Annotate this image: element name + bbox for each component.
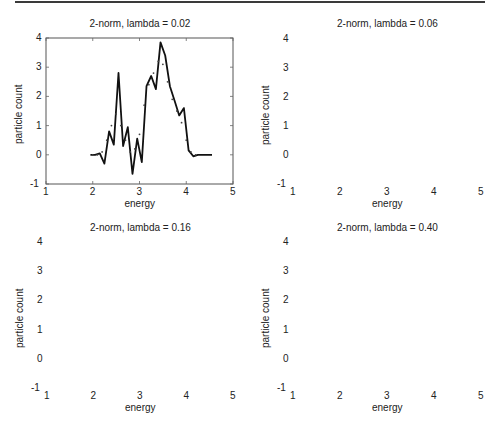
y-tick-label: 4 <box>37 236 43 247</box>
y-axis-label: particle count <box>260 85 271 144</box>
y-tick-label: 2 <box>36 90 42 101</box>
axes-box <box>46 38 233 184</box>
y-tick-label: 0 <box>283 353 289 364</box>
true-signal-dot <box>157 60 159 62</box>
true-signal-dot <box>101 151 103 153</box>
x-tick-label: 1 <box>290 390 296 401</box>
x-tick-label: 2 <box>337 390 343 401</box>
y-tick-label: 3 <box>283 62 289 73</box>
x-axis-label: energy <box>125 402 156 413</box>
x-tick-label: 5 <box>230 390 236 401</box>
x-tick-label: 4 <box>431 390 437 401</box>
plot-area <box>0 0 501 435</box>
y-axis-label: particle count <box>260 289 271 348</box>
true-signal-dot <box>162 63 164 65</box>
x-tick-label: 2 <box>91 390 97 401</box>
x-tick-label: 3 <box>137 390 143 401</box>
y-tick-label: 0 <box>37 353 43 364</box>
chart-title: 2-norm, lambda = 0.06 <box>337 18 438 29</box>
true-signal-dot <box>148 84 150 86</box>
y-tick-label: 4 <box>283 33 289 44</box>
x-tick-label: 1 <box>44 390 50 401</box>
y-tick-label: 3 <box>36 61 42 72</box>
x-tick-label: 1 <box>43 186 49 197</box>
y-tick-label: 2 <box>283 91 289 102</box>
x-tick-label: 3 <box>384 186 390 197</box>
y-tick-label: 3 <box>37 265 43 276</box>
top-rule <box>15 1 485 3</box>
y-tick-label: 3 <box>283 265 289 276</box>
y-tick-label: -1 <box>31 382 40 393</box>
x-axis-label: energy <box>372 198 403 209</box>
true-signal-dot <box>111 125 113 127</box>
chart-title: 2-norm, lambda = 0.02 <box>90 18 191 29</box>
true-signal-dot <box>195 154 197 156</box>
x-tick-label: 2 <box>337 186 343 197</box>
y-tick-label: 1 <box>36 120 42 131</box>
y-tick-label: 4 <box>283 236 289 247</box>
x-tick-label: 4 <box>431 186 437 197</box>
y-tick-label: 4 <box>36 32 42 43</box>
true-signal-dot <box>185 139 187 141</box>
true-signal-dot <box>190 151 192 153</box>
true-signal-dot <box>153 72 155 74</box>
x-tick-label: 4 <box>183 186 189 197</box>
x-tick-label: 3 <box>137 186 143 197</box>
true-signal-dot <box>171 98 173 100</box>
true-signal-dot <box>92 154 94 156</box>
true-signal-dot <box>134 148 136 150</box>
true-signal-dot <box>167 81 169 83</box>
y-tick-label: -1 <box>277 382 286 393</box>
x-tick-label: 4 <box>184 390 190 401</box>
x-tick-label: 2 <box>90 186 96 197</box>
true-signal-dot <box>181 122 183 124</box>
y-axis-label: particle count <box>14 289 25 348</box>
chart-title: 2-norm, lambda = 0.16 <box>90 222 191 233</box>
x-axis-label: energy <box>125 198 156 209</box>
y-tick-label: 2 <box>37 294 43 305</box>
x-tick-label: 3 <box>384 390 390 401</box>
reconstruction-line <box>90 42 212 173</box>
x-tick-label: 5 <box>478 186 484 197</box>
true-signal-dot <box>115 113 117 115</box>
chart-title: 2-norm, lambda = 0.40 <box>337 222 438 233</box>
y-tick-label: 1 <box>283 120 289 131</box>
true-signal-dot <box>106 139 108 141</box>
y-tick-label: 0 <box>36 149 42 160</box>
true-signal-dot <box>143 104 145 106</box>
x-tick-label: 5 <box>230 186 236 197</box>
y-tick-label: -1 <box>277 178 286 189</box>
y-tick-label: 1 <box>283 324 289 335</box>
true-signal-dot <box>129 151 131 153</box>
x-tick-label: 1 <box>290 186 296 197</box>
true-signal-dot <box>139 133 141 135</box>
y-tick-label: -1 <box>30 178 39 189</box>
true-signal-dot <box>125 139 127 141</box>
true-signal-dot <box>120 125 122 127</box>
x-tick-label: 5 <box>478 390 484 401</box>
y-axis-label: particle count <box>13 85 24 144</box>
true-signal-dot <box>176 110 178 112</box>
y-tick-label: 0 <box>283 149 289 160</box>
x-axis-label: energy <box>372 402 403 413</box>
y-tick-label: 1 <box>37 324 43 335</box>
y-tick-label: 2 <box>283 294 289 305</box>
true-signal-dot <box>97 154 99 156</box>
